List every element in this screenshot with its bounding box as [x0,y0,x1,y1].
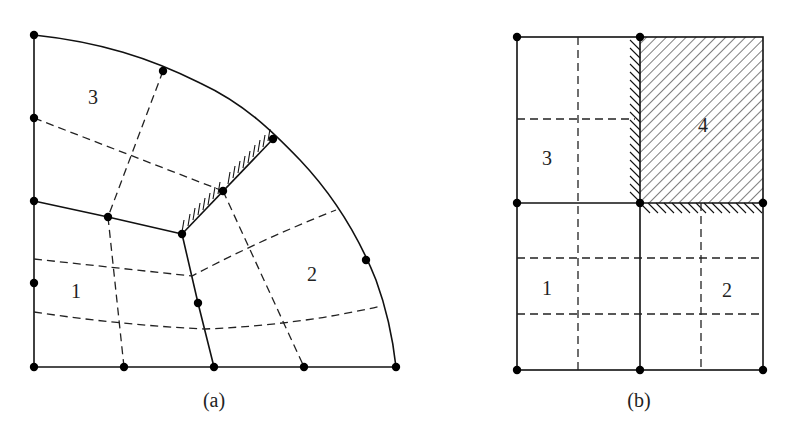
dash-line [34,118,223,191]
figure-a: 3 1 2 (a) [30,31,400,412]
region-label-3: 3 [88,86,98,108]
region-label-1: 1 [542,277,552,299]
dash-line [108,71,163,217]
region-label-3: 3 [542,147,552,169]
nodes-a [30,31,400,371]
dash-line [108,217,124,367]
region-label-2: 2 [307,263,317,285]
outer-arc [34,35,396,367]
block-boundary-3-2 [182,139,273,234]
dash-line [223,191,304,367]
region-label-4: 4 [698,114,708,136]
region-label-1: 1 [71,280,81,302]
caption-b: (b) [627,389,650,412]
region-label-2: 2 [722,279,732,301]
figure-b: 3 4 1 2 (b) [513,33,767,412]
mesh-diagram: 3 1 2 (a) [0,0,794,429]
dash-line [34,306,381,329]
dash-line [34,210,336,276]
left-edge-hatch [630,40,640,202]
caption-a: (a) [203,389,225,412]
